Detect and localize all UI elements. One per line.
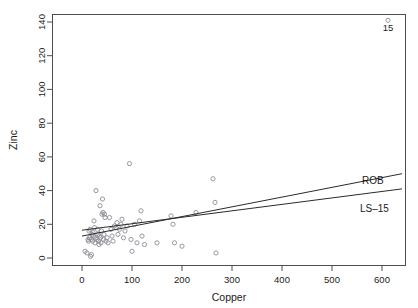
x-axis-title: Copper <box>212 291 247 303</box>
data-point <box>129 237 133 241</box>
plot-canvas: 0 20 40 60 80 100 120 140 Zinc 0 100 200… <box>0 0 418 308</box>
series-label-ls15: LS–15 <box>360 203 389 214</box>
data-point <box>180 244 184 248</box>
data-point <box>110 234 114 238</box>
x-axis-ticks <box>82 266 382 272</box>
regression-lines-layer <box>82 174 402 236</box>
y-tick-label: 80 <box>36 118 47 129</box>
x-tick-label: 0 <box>79 274 84 285</box>
data-point <box>127 162 131 166</box>
y-tick-label: 0 <box>36 255 47 260</box>
data-point <box>171 222 175 226</box>
x-tick-label: 400 <box>274 274 290 285</box>
x-tick-label: 600 <box>374 274 390 285</box>
data-point <box>116 232 120 236</box>
data-point <box>140 234 144 238</box>
data-point <box>214 251 218 255</box>
y-tick-label: 100 <box>36 81 47 97</box>
y-tick-label: 20 <box>36 219 47 230</box>
scatter-plot-figure: 0 20 40 60 80 100 120 140 Zinc 0 100 200… <box>0 0 418 308</box>
data-point <box>155 241 159 245</box>
regression-line-ls-15 <box>82 189 402 230</box>
data-point <box>135 241 139 245</box>
y-axis-tick-labels: 0 20 40 60 80 100 120 140 <box>36 14 47 261</box>
x-tick-label: 100 <box>124 274 140 285</box>
x-tick-label: 200 <box>174 274 190 285</box>
outlier-point-label: 15 <box>383 22 394 33</box>
plot-frame <box>53 15 406 266</box>
data-point <box>94 188 98 192</box>
data-point <box>169 214 173 218</box>
regression-line-rob <box>82 174 402 236</box>
data-points-layer <box>83 18 390 258</box>
data-point <box>92 219 96 223</box>
data-point <box>98 204 102 208</box>
y-axis-title: Zinc <box>7 130 19 150</box>
data-point <box>107 215 111 219</box>
y-tick-label: 40 <box>36 185 47 196</box>
data-point <box>139 209 143 213</box>
data-point <box>130 249 134 253</box>
data-point <box>213 200 217 204</box>
data-point <box>100 197 104 201</box>
y-tick-label: 60 <box>36 152 47 163</box>
y-tick-label: 140 <box>36 14 47 30</box>
data-point <box>111 239 115 243</box>
data-point <box>120 217 124 221</box>
series-label-rob: ROB <box>362 175 384 186</box>
y-axis-ticks <box>47 22 53 258</box>
x-axis-tick-labels: 0 100 200 300 400 500 600 <box>79 274 390 285</box>
data-point <box>211 177 215 181</box>
data-point <box>142 242 146 246</box>
x-tick-label: 500 <box>324 274 340 285</box>
x-tick-label: 300 <box>224 274 240 285</box>
data-point <box>172 241 176 245</box>
y-tick-label: 120 <box>36 48 47 64</box>
data-point <box>121 236 125 240</box>
data-point <box>123 229 127 233</box>
